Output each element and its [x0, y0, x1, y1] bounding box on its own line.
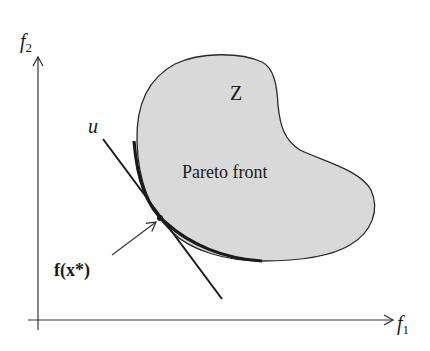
pointer-arrow	[112, 222, 156, 255]
region-label-z: Z	[230, 82, 242, 104]
pareto-diagram: f2 f1 Z Pareto front u f(x*)	[0, 0, 430, 351]
optimal-point	[157, 215, 163, 221]
point-label-fx: f(x*)	[54, 260, 90, 281]
y-axis-label: f2	[20, 30, 32, 55]
pareto-front-label: Pareto front	[182, 162, 267, 182]
tangent-label-u: u	[88, 115, 98, 137]
x-axis-label: f1	[397, 312, 409, 337]
